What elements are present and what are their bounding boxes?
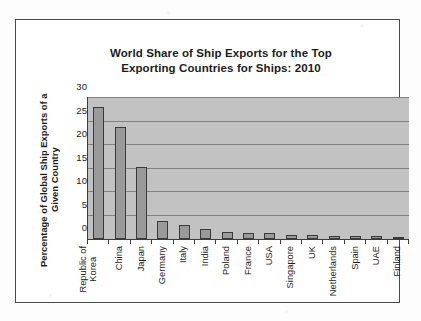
- bar: [371, 236, 382, 239]
- x-tick-label: UK: [307, 246, 317, 259]
- x-tick-label-line: UK: [307, 246, 317, 259]
- x-tick-mark: [108, 240, 109, 244]
- x-tick-label: Netherlands: [328, 246, 338, 296]
- x-tick-mark: [258, 240, 259, 244]
- x-label-slot: Spain: [344, 246, 365, 318]
- x-tick-mark: [194, 240, 195, 244]
- bar: [329, 236, 340, 239]
- x-tick-mark: [130, 240, 131, 244]
- x-tick-label: Spain: [350, 246, 360, 270]
- bar-slot: [259, 98, 280, 239]
- x-tick-label: USA: [264, 246, 274, 265]
- x-tick-label-line: USA: [264, 246, 274, 265]
- x-tick-label-line: Korea: [88, 246, 98, 293]
- bar: [307, 235, 318, 239]
- bar-slot: [281, 98, 302, 239]
- bar-slot: [152, 98, 173, 239]
- bar-slot: [366, 98, 387, 239]
- x-tick-label-line: Finland: [392, 246, 402, 277]
- x-tick-mark: [344, 240, 345, 244]
- bar-slot: [216, 98, 237, 239]
- x-label-slot: India: [194, 246, 215, 318]
- x-label-slot: Japan: [130, 246, 151, 318]
- x-label-slot: Finland: [387, 246, 408, 318]
- y-tick-label: 0: [65, 222, 87, 233]
- x-label-slot: Poland: [215, 246, 236, 318]
- y-tick-label: 30: [65, 81, 87, 92]
- x-tick-label: Republic ofKorea: [78, 246, 98, 293]
- x-label-slot: Netherlands: [322, 246, 343, 318]
- x-tick-label-line: Netherlands: [328, 246, 338, 296]
- bar: [157, 221, 168, 239]
- x-label-slot: China: [108, 246, 129, 318]
- bar: [200, 229, 211, 239]
- x-tick-label-line: India: [200, 246, 210, 266]
- bar: [93, 107, 104, 239]
- x-label-slot: Germany: [151, 246, 172, 318]
- x-tick-label-line: Singapore: [285, 246, 295, 288]
- x-tick-mark: [237, 240, 238, 244]
- bar-slot: [345, 98, 366, 239]
- x-tick-label-line: France: [243, 246, 253, 275]
- y-tick-label: 5: [65, 199, 87, 210]
- bar: [350, 236, 361, 239]
- x-tick-mark: [408, 240, 409, 244]
- x-axis-ticks: [87, 240, 409, 245]
- x-tick-label: Italy: [178, 246, 188, 263]
- x-tick-mark: [365, 240, 366, 244]
- bar: [115, 127, 126, 239]
- x-label-slot: UAE: [365, 246, 386, 318]
- x-label-slot: Republic ofKorea: [87, 246, 108, 318]
- x-tick-label-line: Italy: [178, 246, 188, 263]
- bar: [243, 233, 254, 239]
- x-tick-label: Finland: [392, 246, 402, 277]
- chart-title-line-2: Exporting Countries for Ships: 2010: [56, 61, 386, 76]
- bar: [393, 237, 404, 239]
- bar-series: [88, 98, 409, 239]
- bar-slot: [388, 98, 409, 239]
- x-tick-label: Japan: [136, 246, 146, 271]
- bar-slot: [323, 98, 344, 239]
- chart-frame: World Share of Ship Exports for the Top …: [15, 19, 400, 303]
- x-tick-label: Singapore: [285, 246, 295, 288]
- plot-area: [87, 98, 409, 240]
- y-axis-title-line-2: Given Country: [49, 80, 60, 280]
- bar: [264, 233, 275, 239]
- x-tick-label-line: Spain: [350, 246, 360, 270]
- y-axis-title: Percentage of Global Ship Exports of a G…: [38, 80, 62, 280]
- x-tick-label: UAE: [371, 246, 381, 265]
- bar-slot: [131, 98, 152, 239]
- bar: [179, 225, 190, 239]
- x-tick-label-line: Republic of: [78, 246, 88, 293]
- bar-slot: [88, 98, 109, 239]
- y-tick-label: 25: [65, 105, 87, 116]
- bar-slot: [238, 98, 259, 239]
- bar: [286, 235, 297, 239]
- bar-slot: [109, 98, 130, 239]
- x-tick-mark: [301, 240, 302, 244]
- x-axis-labels: Republic ofKoreaChinaJapanGermanyItalyIn…: [87, 246, 408, 318]
- x-label-slot: UK: [301, 246, 322, 318]
- x-tick-label-line: Japan: [136, 246, 146, 271]
- x-tick-label-line: UAE: [371, 246, 381, 265]
- x-tick-mark: [387, 240, 388, 244]
- x-label-slot: USA: [258, 246, 279, 318]
- x-tick-label: China: [114, 246, 124, 270]
- x-tick-label-line: Germany: [157, 246, 167, 284]
- x-tick-label: Germany: [157, 246, 167, 284]
- y-tick-label: 15: [65, 152, 87, 163]
- bar-slot: [174, 98, 195, 239]
- x-tick-mark: [215, 240, 216, 244]
- x-tick-mark: [87, 240, 88, 244]
- y-tick-label: 10: [65, 175, 87, 186]
- x-tick-label-line: China: [114, 246, 124, 270]
- x-tick-mark: [173, 240, 174, 244]
- x-tick-label-line: Poland: [221, 246, 231, 275]
- x-label-slot: Singapore: [280, 246, 301, 318]
- x-tick-mark: [151, 240, 152, 244]
- x-label-slot: France: [237, 246, 258, 318]
- chart-title: World Share of Ship Exports for the Top …: [56, 46, 386, 75]
- y-tick-label: 20: [65, 128, 87, 139]
- x-tick-label: France: [243, 246, 253, 275]
- bar: [222, 232, 233, 239]
